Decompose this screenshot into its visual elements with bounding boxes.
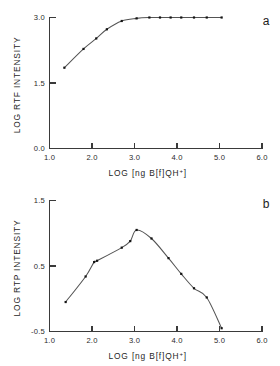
x-tick-label-b-5: 6.0 [256, 336, 267, 345]
plot-svg-b: -0.50.51.51.02.03.04.05.06.0 LOG [ng B[f… [0, 183, 280, 366]
x-tick-label-a-2: 3.0 [129, 153, 140, 162]
axes-b [49, 200, 262, 332]
x-ticks-a [50, 143, 263, 149]
curve-b [66, 230, 222, 328]
datapoint-a [148, 16, 150, 18]
datapoint-b [121, 247, 123, 249]
datapoint-a [63, 67, 65, 69]
datapoint-b [180, 273, 182, 275]
datapoint-a [193, 16, 195, 18]
y-axis-title-a: LOG RTF INTENSITY [12, 37, 22, 134]
y-axis-title-b: LOG RTP INTENSITY [12, 220, 22, 317]
y-ticks-b [50, 201, 56, 332]
datapoint-b [65, 301, 67, 303]
x-ticks-b [50, 326, 263, 332]
datapoint-b [150, 237, 152, 239]
datapoint-a [82, 48, 84, 50]
datapoint-a [180, 16, 182, 18]
axis-titles-b: LOG [ng B[f]QH+]LOG RTP INTENSITY [12, 220, 187, 361]
x-tick-label-b-3: 4.0 [171, 336, 182, 345]
datapoint-a [121, 20, 123, 22]
tick-labels-b: -0.50.51.51.02.03.04.05.06.0 [31, 196, 267, 345]
x-tick-label-a-4: 5.0 [214, 153, 225, 162]
panel-letter-b: b [263, 197, 270, 211]
series-b [65, 229, 223, 329]
datapoint-a [206, 16, 208, 18]
y-tick-label-a-1: 1.5 [34, 79, 45, 88]
figure-container: 0.01.53.01.02.03.04.05.06.0 LOG [ng B[f]… [0, 0, 280, 366]
panel-letter-a: a [263, 14, 270, 28]
x-tick-label-a-1: 2.0 [86, 153, 97, 162]
y-ticks-a [50, 18, 56, 149]
x-tick-label-b-0: 1.0 [44, 336, 55, 345]
datapoints-a [63, 16, 222, 68]
y-tick-label-b-0: -0.5 [31, 327, 45, 336]
x-axis-title-a: LOG [ng B[f]QH+] [108, 168, 187, 178]
datapoint-b [136, 229, 138, 231]
curve-a [64, 17, 221, 67]
x-tick-label-a-5: 6.0 [256, 153, 267, 162]
plot-svg-a: 0.01.53.01.02.03.04.05.06.0 LOG [ng B[f]… [0, 0, 280, 183]
datapoint-a [95, 37, 97, 39]
datapoints-b [65, 229, 223, 329]
tick-labels-a: 0.01.53.01.02.03.04.05.06.0 [34, 13, 268, 162]
x-tick-label-b-2: 3.0 [129, 336, 140, 345]
x-tick-label-a-0: 1.0 [44, 153, 55, 162]
datapoint-b [93, 261, 95, 263]
series-a [63, 16, 222, 68]
datapoint-b [206, 296, 208, 298]
y-tick-label-b-2: 1.5 [34, 196, 45, 205]
datapoint-a [221, 16, 223, 18]
x-tick-label-a-3: 4.0 [171, 153, 182, 162]
y-tick-label-a-2: 3.0 [34, 13, 45, 22]
axes-a [49, 17, 262, 149]
chart-panel-a: 0.01.53.01.02.03.04.05.06.0 LOG [ng B[f]… [0, 0, 280, 183]
datapoint-b [129, 240, 131, 242]
datapoint-b [85, 275, 87, 277]
x-axis-title-b: LOG [ng B[f]QH+] [108, 351, 187, 361]
datapoint-b [193, 287, 195, 289]
datapoint-b [96, 260, 98, 262]
datapoint-a [159, 16, 161, 18]
datapoint-b [221, 327, 223, 329]
datapoint-b [167, 257, 169, 259]
axis-titles-a: LOG [ng B[f]QH+]LOG RTF INTENSITY [12, 37, 187, 178]
chart-panel-b: -0.50.51.51.02.03.04.05.06.0 LOG [ng B[f… [0, 183, 280, 366]
y-tick-label-b-1: 0.5 [34, 262, 45, 271]
datapoint-a [170, 16, 172, 18]
x-tick-label-b-4: 5.0 [214, 336, 225, 345]
x-tick-label-b-1: 2.0 [86, 336, 97, 345]
datapoint-a [136, 17, 138, 19]
datapoint-a [106, 28, 108, 30]
